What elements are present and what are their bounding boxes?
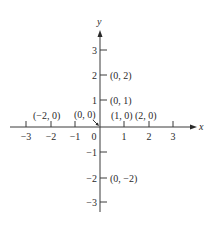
x-tick-label: −2 xyxy=(46,131,57,142)
x-tick-label: 2 xyxy=(147,131,152,142)
y-tick-labels: 3 2 1 −1 −2 −3 xyxy=(86,45,97,208)
point-label-0-neg2: (0, −2) xyxy=(110,173,137,185)
y-tick-label: −3 xyxy=(86,197,97,208)
y-tick-label: 2 xyxy=(92,70,97,81)
point-label-2-0: (2, 0) xyxy=(135,110,157,122)
x-axis-arrow-icon xyxy=(190,125,197,130)
y-tick-label: 1 xyxy=(92,95,97,106)
x-axis-label: x xyxy=(198,121,204,132)
coordinate-plane: x y −3 −2 −1 0 1 2 3 3 2 1 −1 −2 −3 xyxy=(0,0,218,226)
y-tick-label: −1 xyxy=(86,147,97,158)
point-label-0-2: (0, 2) xyxy=(110,70,132,82)
point-label-0-1: (0, 1) xyxy=(110,95,132,107)
point-label-0-0: (0, 0) xyxy=(74,109,96,121)
x-tick-label: 1 xyxy=(122,131,127,142)
x-tick-label: 3 xyxy=(171,131,176,142)
y-tick-label: 3 xyxy=(92,45,97,56)
point-label-neg2-0: (−2, 0) xyxy=(33,110,60,122)
y-axis-arrow-icon xyxy=(98,30,103,37)
y-tick-label: −2 xyxy=(86,173,97,184)
x-tick-labels: −3 −2 −1 0 1 2 3 xyxy=(21,131,176,142)
y-axis-label: y xyxy=(96,16,102,27)
point-label-1-0: (1, 0) xyxy=(111,110,133,122)
x-tick-label: −3 xyxy=(21,131,32,142)
y-ticks xyxy=(100,50,107,202)
x-tick-label: −1 xyxy=(70,131,81,142)
origin-pointer-arrow-icon xyxy=(93,120,99,126)
x-tick-label: 0 xyxy=(92,131,97,142)
